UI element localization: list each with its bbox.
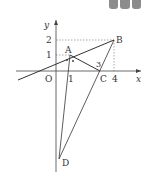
y-axis-arrow-icon <box>54 20 58 25</box>
angle-mark-dot <box>66 59 68 61</box>
y-tick-2: 2 <box>46 35 52 45</box>
angle-mark-dot <box>72 60 74 62</box>
angle-label-3: 3 <box>96 60 101 69</box>
x-axis-arrow-icon <box>136 69 141 73</box>
x-axis-label: x <box>136 74 141 84</box>
x-tick-1: 1 <box>68 74 74 84</box>
x-tick-4: 4 <box>112 74 118 84</box>
point-label-A: A <box>64 45 72 55</box>
point-label-C: C <box>100 74 107 84</box>
y-tick-1: 1 <box>46 50 52 60</box>
y-axis-label: y <box>43 20 50 30</box>
geometry-diagram: y x O 2 1 1 4 A B C D 3 <box>0 0 151 184</box>
origin-label: O <box>45 74 52 84</box>
point-label-D: D <box>62 158 69 168</box>
segment-BD <box>59 40 114 159</box>
point-label-B: B <box>116 35 123 45</box>
